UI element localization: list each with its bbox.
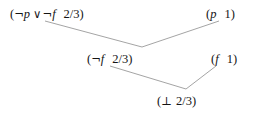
resolution-derivation-diagram: (¬p∨¬f2/3) (p1) (¬f2/3) (f1) (⊥2/3) <box>0 0 263 116</box>
node-mid-left-atom-f: f <box>101 52 104 66</box>
node-top-left-atom-f: f <box>52 7 55 21</box>
node-bottom-close-paren: ) <box>192 94 196 108</box>
node-top-right-clause: (p1) <box>206 8 235 21</box>
node-top-right-close-paren: ) <box>231 7 235 21</box>
edge-top-left-to-mid-node <box>45 21 142 47</box>
node-mid-right-clause: (f1) <box>211 53 237 66</box>
node-top-left-negation-icon: ¬ <box>14 7 24 21</box>
node-mid-right-close-paren: ) <box>233 52 237 66</box>
node-top-right-atom-p: p <box>210 7 216 21</box>
node-bottom-empty-clause: (⊥2/3) <box>157 95 196 108</box>
node-mid-left-negation-icon: ¬ <box>91 52 101 66</box>
node-mid-left-clause: (¬f2/3) <box>87 53 132 66</box>
node-mid-left-weight: 2/3 <box>112 52 128 66</box>
node-bottom-falsum-icon: ⊥ <box>161 94 172 108</box>
edge-mid-right-to-bottom-node <box>186 66 216 89</box>
node-top-left-clause: (¬p∨¬f2/3) <box>10 8 84 21</box>
node-mid-left-close-paren: ) <box>128 52 132 66</box>
node-top-left-weight: 2/3 <box>64 7 80 21</box>
edge-top-right-to-mid-node <box>142 21 219 47</box>
node-mid-right-atom-f: f <box>215 52 218 66</box>
node-top-left-close-paren: ) <box>80 7 84 21</box>
node-top-left-disjunction-icon: ∨ <box>32 7 42 21</box>
edge-mid-left-to-bottom-node <box>110 66 186 89</box>
node-top-left-negation-2-icon: ¬ <box>42 7 52 21</box>
node-top-left-atom-p: p <box>24 7 30 21</box>
node-bottom-weight: 2/3 <box>176 94 192 108</box>
